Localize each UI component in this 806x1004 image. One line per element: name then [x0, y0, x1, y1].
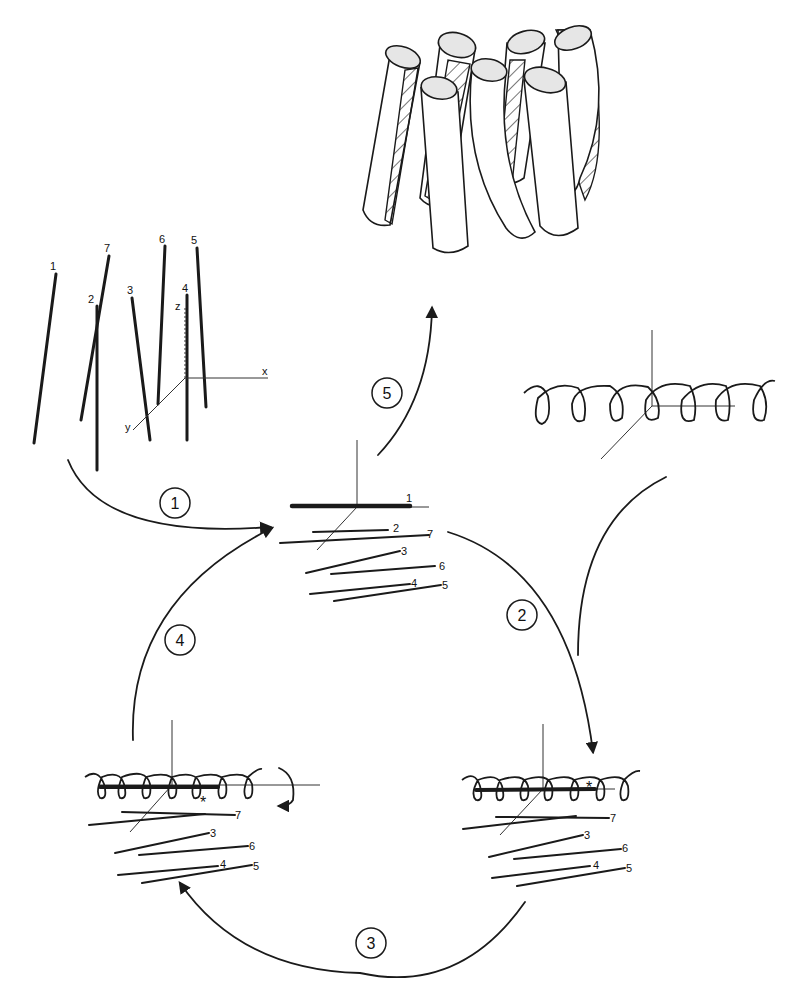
helix-5-docked-right	[517, 868, 625, 886]
helix-2-docked-left	[122, 812, 235, 815]
arrow-step-2	[448, 532, 593, 752]
step-4-marker: 4	[165, 625, 195, 655]
helix-7-docked-left	[89, 814, 205, 825]
label-helix-6: 6	[159, 233, 165, 245]
label-aligned-3: 3	[401, 545, 407, 557]
helix-6-aligned	[331, 566, 435, 574]
label-z-axis: z	[175, 300, 181, 312]
label-docked-right-5: 5	[626, 862, 632, 874]
docked-right-y-axis	[500, 789, 543, 835]
label-aligned-7: 7	[427, 528, 433, 540]
step-4-label: 4	[176, 632, 185, 649]
rotation-arrow-icon	[279, 768, 293, 806]
label-docked-left-6: 6	[249, 840, 255, 852]
coil-with-axes	[524, 330, 775, 459]
docked-left: * 7 3 6 4 5	[85, 720, 320, 883]
label-docked-right-7: 7	[610, 812, 616, 824]
label-aligned-1: 1	[406, 492, 412, 504]
helix-7	[81, 256, 109, 420]
step-3-marker: 3	[356, 928, 386, 958]
coil-docked-left-icon	[85, 769, 262, 798]
label-x-axis: x	[262, 365, 268, 377]
helix-5-aligned	[334, 585, 441, 601]
label-helix-5: 5	[191, 234, 197, 246]
helix-assembly-diagram: 1 7 2 3 6 4 5 x y z 1 2 7 3 6 4 5	[0, 0, 806, 1004]
aligned-y-axis	[317, 507, 357, 550]
label-docked-left-3: 3	[210, 827, 216, 839]
label-docked-right-6: 6	[622, 842, 628, 854]
step-3-label: 3	[367, 935, 376, 952]
label-docked-left-4: 4	[220, 858, 226, 870]
label-docked-left-5: 5	[253, 860, 259, 872]
helix-6	[158, 246, 165, 404]
marker-star-right: *	[586, 779, 592, 796]
label-aligned-5: 5	[442, 579, 448, 591]
helix-3	[132, 298, 150, 440]
arrow-coil-feed	[578, 477, 666, 655]
label-aligned-4: 4	[411, 577, 417, 589]
step-1-label: 1	[171, 495, 180, 512]
helix-7-aligned	[280, 535, 429, 543]
step-5-marker: 5	[372, 378, 402, 408]
label-docked-right-4: 4	[593, 859, 599, 871]
helix-6-docked-right	[514, 849, 621, 859]
initial-helices: 1 7 2 3 6 4 5 x y z	[34, 233, 268, 470]
label-docked-right-3: 3	[584, 829, 590, 841]
coil-docked-right-icon	[462, 771, 640, 800]
label-helix-1: 1	[50, 260, 56, 272]
label-aligned-6: 6	[439, 560, 445, 572]
cylinder-bundle	[363, 21, 599, 252]
label-docked-left-7: 7	[235, 809, 241, 821]
label-y-axis: y	[125, 421, 131, 433]
docked-right: * 7 3 6 4 5	[462, 724, 640, 886]
arrow-step-4	[133, 528, 272, 740]
label-helix-7: 7	[104, 242, 110, 254]
marker-star-left: *	[200, 794, 206, 811]
helix-6-docked-left	[139, 846, 248, 855]
helix-5	[197, 248, 206, 407]
aligned-helices: 1 2 7 3 6 4 5	[280, 440, 448, 601]
helix-1-docked-right	[476, 789, 595, 790]
label-helix-4: 4	[182, 282, 188, 294]
label-helix-3: 3	[127, 284, 133, 296]
label-helix-2: 2	[88, 293, 94, 305]
helix-1	[34, 274, 56, 443]
coil-icon	[524, 381, 775, 424]
coil-y-axis	[601, 406, 652, 459]
step-2-marker: 2	[507, 600, 537, 630]
label-aligned-2: 2	[393, 522, 399, 534]
helix-2-aligned	[313, 530, 388, 532]
step-5-label: 5	[383, 385, 392, 402]
arrow-step-3	[180, 883, 525, 977]
step-1-marker: 1	[160, 488, 190, 518]
step-2-label: 2	[518, 607, 527, 624]
